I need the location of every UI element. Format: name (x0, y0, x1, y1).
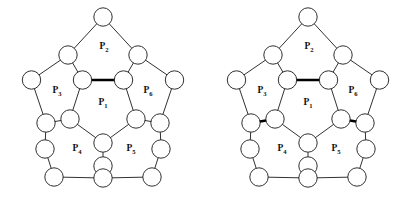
node-n2 (165, 71, 183, 89)
node-m5 (37, 114, 55, 132)
node-i5 (266, 110, 284, 128)
face-label-p2: P2 (304, 41, 314, 52)
node-o5 (36, 140, 54, 158)
face-label-p5: P5 (331, 143, 341, 154)
node-o4 (45, 168, 63, 186)
face-label-p3: P3 (52, 85, 62, 96)
node-o1 (357, 140, 375, 158)
node-o3 (299, 169, 317, 187)
face-label-p4: P4 (72, 143, 82, 154)
face-label-p6: P6 (348, 85, 358, 96)
right-dodecahedral-graph: P1 P2 P3 P4 P5 P6 (205, 0, 410, 197)
face-label-p4: P4 (277, 143, 287, 154)
node-i4 (299, 134, 317, 152)
node-o3 (94, 169, 112, 187)
node-n1 (299, 8, 317, 26)
node-o4 (250, 168, 268, 186)
node-m3 (151, 114, 169, 132)
face-label-p5: P5 (126, 143, 136, 154)
node-i3 (127, 110, 145, 128)
node-o1 (152, 140, 170, 158)
node-i3 (332, 110, 350, 128)
node-n5 (227, 71, 245, 89)
node-i2 (114, 71, 132, 89)
face-label-p3: P3 (257, 85, 267, 96)
node-m3 (356, 114, 374, 132)
node-m1 (264, 46, 282, 64)
left-dodecahedral-graph: P1 P2 P3 P4 P5 P6 (0, 0, 205, 197)
node-o5 (241, 140, 259, 158)
face-label-p1: P1 (98, 97, 107, 108)
node-o2 (348, 168, 366, 186)
face-label-p6: P6 (143, 85, 153, 96)
node-i4 (94, 134, 112, 152)
face-label-p1: P1 (303, 97, 312, 108)
node-n5 (22, 71, 40, 89)
node-m2 (334, 46, 352, 64)
node-i1 (278, 71, 296, 89)
node-m1 (59, 46, 77, 64)
node-n1 (94, 8, 112, 26)
figure-pair: P1 P2 P3 P4 P5 P6 (0, 0, 410, 197)
node-o2 (143, 168, 161, 186)
node-m2 (129, 46, 147, 64)
node-i5 (61, 110, 79, 128)
node-n2 (370, 71, 388, 89)
node-i1 (73, 71, 91, 89)
face-label-p2: P2 (99, 41, 109, 52)
node-m5 (242, 114, 260, 132)
node-i2 (319, 71, 337, 89)
